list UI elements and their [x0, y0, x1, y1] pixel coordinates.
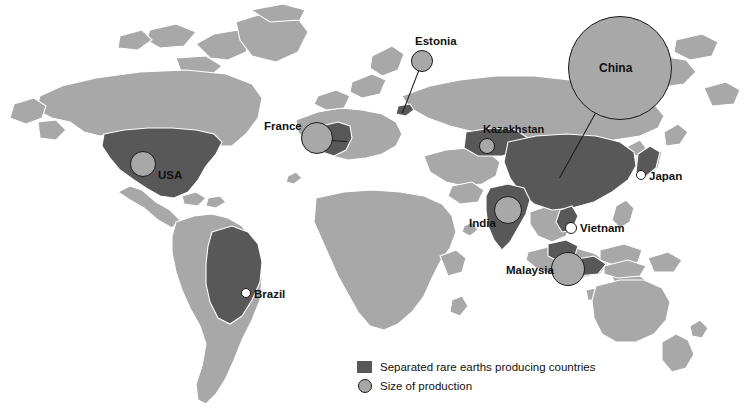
label-brazil: Brazil — [254, 289, 285, 301]
label-india: India — [469, 218, 496, 230]
bubble-usa[interactable] — [130, 151, 156, 177]
legend-size-label: Size of production — [380, 380, 472, 392]
legend-row-size: Size of production — [357, 379, 595, 393]
bubble-brazil[interactable] — [241, 288, 251, 298]
legend-producer-label: Separated rare earths producing countrie… — [380, 361, 595, 373]
bubble-japan[interactable] — [636, 170, 646, 180]
bubble-india[interactable] — [494, 196, 522, 224]
legend-row-producers: Separated rare earths producing countrie… — [357, 361, 595, 373]
bubble-malaysia[interactable] — [551, 252, 585, 286]
label-france: France — [264, 121, 302, 133]
label-malaysia: Malaysia — [506, 265, 554, 277]
bubble-france[interactable] — [301, 122, 333, 154]
producer-swatch-icon — [357, 361, 372, 373]
label-kazakhstan: Kazakhstan — [483, 124, 544, 135]
bubble-vietnam[interactable] — [565, 222, 577, 234]
world-map-figure: China USA France Estonia Kazakhstan Indi… — [0, 0, 751, 420]
map-legend: Separated rare earths producing countrie… — [357, 361, 595, 399]
label-japan: Japan — [649, 171, 682, 183]
bubble-kazakhstan[interactable] — [479, 138, 495, 154]
label-vietnam: Vietnam — [580, 223, 625, 235]
bubble-estonia[interactable] — [411, 50, 433, 72]
label-usa: USA — [158, 170, 182, 182]
label-estonia: Estonia — [415, 36, 457, 48]
label-china: China — [599, 62, 632, 74]
size-bubble-icon — [358, 379, 372, 393]
